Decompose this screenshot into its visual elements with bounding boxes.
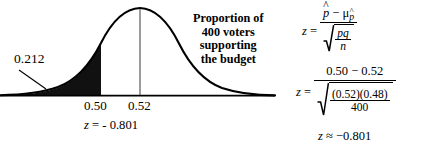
tail-probability-label: 0.212 bbox=[14, 52, 44, 67]
square-root-pq-n: pq n bbox=[323, 24, 354, 52]
formula-1-fraction: ^p − μ^p pq n bbox=[320, 6, 357, 56]
axis-tick-label-mean: 0.52 bbox=[128, 99, 151, 113]
caption-line-2: 400 voters bbox=[193, 26, 264, 40]
radicand-pq-n: pq n bbox=[334, 24, 354, 52]
formula-2-fraction: 0.50 − 0.52 (0.52)(0.48) 400 bbox=[314, 64, 396, 120]
radical-sign-numeric-icon bbox=[317, 82, 329, 116]
numeric-denominator: 400 bbox=[349, 101, 370, 113]
numeric-numerator: (0.52)(0.48) bbox=[330, 88, 390, 100]
mu-symbol: μ^p bbox=[343, 6, 355, 21]
caption-line-3: supporting bbox=[193, 39, 264, 53]
pq-over-n-fraction: pq n bbox=[335, 27, 351, 52]
n-denominator: n bbox=[338, 40, 348, 52]
caption-line-4: the budget bbox=[193, 53, 264, 67]
mu-subscript-p-hat: ^p bbox=[349, 11, 354, 22]
statistics-figure: 0.212 Proportion of 400 voters supportin… bbox=[0, 0, 427, 148]
radicand-numeric: (0.52)(0.48) 400 bbox=[329, 82, 393, 116]
formula-panel: z = ^p − μ^p pq n bbox=[290, 0, 427, 148]
formula-substituted-z: z = 0.50 − 0.52 (0.52)(0.48) 400 bbox=[296, 64, 396, 120]
square-root-pq-n-numeric: (0.52)(0.48) 400 bbox=[317, 82, 393, 116]
numeric-fraction: (0.52)(0.48) 400 bbox=[330, 88, 390, 113]
formula-3-value: ≈ −0.801 bbox=[323, 129, 371, 143]
hat-accent: ^ bbox=[323, 0, 328, 11]
z-value: = - 0.801 bbox=[89, 118, 138, 132]
formula-2-numerator: 0.50 − 0.52 bbox=[323, 64, 386, 80]
formula-general-z: z = ^p − μ^p pq n bbox=[302, 6, 357, 56]
formula-1-denominator: pq n bbox=[320, 23, 357, 56]
curve-caption: Proportion of 400 voters supporting the … bbox=[193, 12, 264, 67]
z-score-axis-label: z = - 0.801 bbox=[84, 119, 138, 133]
axis-tick-label-cutoff: 0.50 bbox=[84, 99, 107, 113]
formula-2-equals: = bbox=[304, 85, 314, 100]
radical-sign-icon bbox=[323, 24, 334, 52]
tail-label-leader-line bbox=[19, 70, 46, 89]
formula-1-equals: = bbox=[310, 24, 320, 39]
formula-2-lhs: z bbox=[296, 85, 304, 100]
formula-result-z: z ≈ −0.801 bbox=[318, 129, 371, 144]
minus-sign: − bbox=[332, 6, 339, 20]
formula-2-denominator: (0.52)(0.48) 400 bbox=[314, 81, 396, 120]
formula-1-numerator: ^p − μ^p bbox=[320, 6, 357, 22]
sub-hat-accent: ^ bbox=[350, 6, 354, 16]
p-hat-symbol: ^p bbox=[323, 6, 329, 21]
normal-curve-panel: 0.212 Proportion of 400 voters supportin… bbox=[0, 0, 290, 148]
caption-line-1: Proportion of bbox=[193, 12, 264, 26]
formula-1-lhs: z bbox=[302, 24, 310, 39]
sub-p-hat: ^p bbox=[349, 11, 354, 22]
pq-numerator: pq bbox=[335, 27, 351, 39]
